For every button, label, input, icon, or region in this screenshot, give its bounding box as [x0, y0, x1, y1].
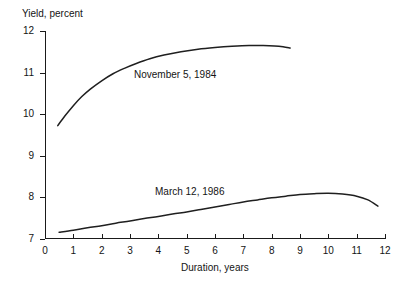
x-axis-tick-label: 0 — [34, 245, 56, 256]
chart-series-lines — [58, 45, 378, 232]
y-axis-tick-label: 9 — [12, 150, 34, 161]
y-axis-tick-label: 11 — [12, 67, 34, 78]
x-axis-title: Duration, years — [181, 262, 249, 274]
x-axis-tick-label: 3 — [119, 245, 141, 256]
x-axis-tick-label: 12 — [374, 245, 396, 256]
series-label-november: November 5, 1984 — [134, 69, 216, 81]
chart-plot-area — [0, 0, 416, 284]
x-axis-tick-label: 1 — [62, 245, 84, 256]
y-axis-title: Yield, percent — [22, 8, 83, 20]
x-axis-tick-label: 2 — [91, 245, 113, 256]
chart-figure: Yield, percent Duration, years 789101112… — [0, 0, 416, 284]
series-label-march: March 12, 1986 — [155, 186, 225, 198]
x-axis-ticks — [46, 234, 386, 239]
chart-axes — [45, 31, 385, 239]
x-axis-tick-label: 4 — [147, 245, 169, 256]
x-axis-tick-label: 9 — [289, 245, 311, 256]
series-line-march — [59, 193, 378, 232]
series-line-november — [58, 45, 290, 125]
x-axis-tick-label: 5 — [176, 245, 198, 256]
y-axis-tick-label: 8 — [12, 191, 34, 202]
y-axis-ticks — [40, 32, 45, 240]
x-axis-tick-label: 10 — [317, 245, 339, 256]
x-axis-tick-label: 7 — [232, 245, 254, 256]
x-axis-tick-label: 6 — [204, 245, 226, 256]
y-axis-tick-label: 12 — [12, 25, 34, 36]
x-axis-tick-label: 11 — [346, 245, 368, 256]
y-axis-tick-label: 10 — [12, 108, 34, 119]
x-axis-tick-label: 8 — [261, 245, 283, 256]
y-axis-tick-label: 7 — [12, 233, 34, 244]
